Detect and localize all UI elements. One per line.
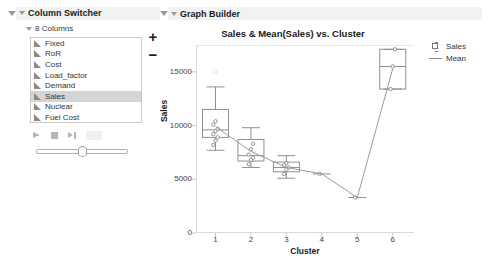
chevron-down-icon[interactable] [26, 27, 32, 31]
list-item[interactable]: Demand [31, 80, 141, 91]
slider-thumb[interactable] [78, 146, 87, 157]
list-item-label: Fixed [45, 39, 65, 48]
disclosure-triangle-inner-icon[interactable] [19, 11, 25, 15]
disclosure-triangle-icon[interactable] [160, 11, 168, 16]
play-icon[interactable] [32, 131, 41, 140]
list-item-label: Fuel Cost [45, 113, 79, 122]
list-item[interactable]: Nuclear [31, 102, 141, 113]
continuous-column-icon [34, 61, 41, 68]
continuous-column-icon [34, 114, 41, 121]
list-item[interactable]: Load_factor [31, 70, 141, 81]
animation-controls [32, 131, 102, 140]
column-switcher-subgroup[interactable]: 8 Columns [26, 24, 73, 33]
graph-builder-header[interactable]: Graph Builder [160, 7, 240, 20]
legend-entry-sales[interactable]: Sales [428, 40, 480, 52]
graph-builder-title: Graph Builder [180, 9, 240, 19]
chart: Sales & Mean(Sales) vs. Cluster Sales Cl… [160, 24, 482, 264]
column-list[interactable]: Fixed RoR Cost Load_factor Demand Sales … [30, 37, 142, 123]
list-item-label: Cost [45, 60, 61, 69]
chart-legend: Sales Mean [428, 40, 480, 64]
speed-field[interactable] [86, 131, 102, 140]
stop-icon[interactable] [50, 131, 59, 140]
step-forward-icon[interactable] [68, 131, 77, 140]
jmp-window: Column Switcher 8 Columns Fixed RoR Cost… [0, 0, 490, 270]
column-count-label: 8 Columns [35, 24, 73, 33]
legend-entry-mean[interactable]: Mean [428, 52, 480, 64]
continuous-column-icon [34, 72, 41, 79]
add-column-button[interactable]: + [146, 30, 160, 43]
list-item-label: Nuclear [45, 102, 73, 111]
column-switcher-panel: Column Switcher [8, 8, 160, 18]
list-item-label: Demand [45, 81, 75, 90]
disclosure-triangle-icon[interactable] [8, 11, 16, 16]
column-switcher-header[interactable]: Column Switcher [8, 8, 160, 18]
list-item-label: Sales [45, 92, 65, 101]
list-item-selected[interactable]: Sales [31, 91, 141, 102]
list-item-label: Load_factor [45, 71, 87, 80]
animation-speed-slider[interactable] [36, 146, 128, 156]
list-item-label: RoR [45, 49, 61, 58]
column-switcher-title: Column Switcher [28, 8, 102, 18]
continuous-column-icon [34, 82, 41, 89]
list-item[interactable]: RoR [31, 49, 141, 60]
list-item[interactable]: Fixed [31, 38, 141, 49]
box-plot-key-icon [428, 41, 442, 51]
list-item[interactable]: Fuel Cost [31, 112, 141, 123]
remove-column-button[interactable]: − [146, 48, 160, 61]
disclosure-triangle-inner-icon[interactable] [171, 12, 177, 16]
x-axis-label: Cluster [196, 246, 414, 256]
legend-label: Mean [446, 54, 466, 63]
continuous-column-icon [34, 93, 41, 100]
continuous-column-icon [34, 103, 41, 110]
legend-label: Sales [446, 42, 466, 51]
continuous-column-icon [34, 40, 41, 47]
line-key-icon [428, 53, 442, 63]
list-item[interactable]: Cost [31, 59, 141, 70]
column-add-remove-controls: + − [146, 30, 160, 61]
continuous-column-icon [34, 50, 41, 57]
